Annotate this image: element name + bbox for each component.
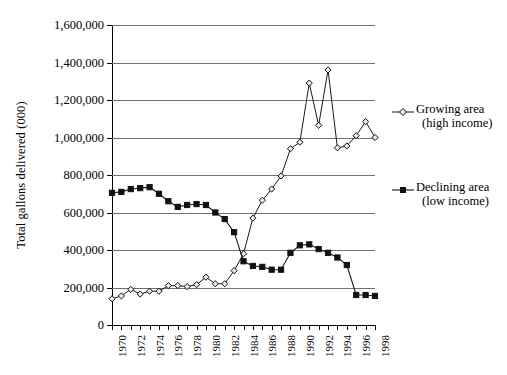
data-point-marker — [213, 210, 218, 215]
data-point-marker — [212, 281, 218, 287]
x-axis-tick — [234, 325, 235, 330]
y-axis-tick-label: 1,600,000 — [54, 18, 104, 33]
y-axis-tick-label: 1,200,000 — [54, 93, 104, 108]
legend-label-growing-area-line2: (high income) — [416, 116, 492, 130]
y-axis-title: Total gallons delivered (000) — [14, 60, 38, 290]
data-point-marker — [307, 242, 312, 247]
x-axis-tick — [253, 325, 254, 330]
data-point-marker — [325, 250, 330, 255]
y-axis-tick-label: 200,000 — [63, 280, 104, 295]
data-point-marker — [372, 293, 377, 298]
x-axis-tick — [215, 325, 216, 330]
x-axis-tick — [328, 325, 329, 330]
x-axis-tick — [121, 325, 122, 330]
data-point-marker — [138, 186, 143, 191]
x-axis-tick — [197, 325, 198, 330]
x-axis-tick — [168, 325, 169, 330]
x-axis-tick — [290, 325, 291, 330]
data-point-marker — [166, 199, 171, 204]
x-axis-tick — [131, 325, 132, 330]
x-axis-tick-label: 1974 — [154, 335, 166, 357]
data-point-marker — [109, 296, 115, 302]
data-point-marker — [222, 216, 227, 221]
data-point-marker — [175, 283, 181, 289]
data-point-marker — [287, 146, 293, 152]
data-point-marker — [278, 267, 283, 272]
data-point-marker — [335, 255, 340, 260]
data-point-marker — [278, 173, 284, 179]
data-point-marker — [222, 281, 228, 287]
data-point-marker — [241, 259, 246, 264]
data-point-marker — [363, 292, 368, 297]
data-point-marker — [363, 118, 369, 124]
data-point-marker — [297, 243, 302, 248]
data-point-marker — [147, 185, 152, 190]
chart-container: Total gallons delivered (000) 1,600,0001… — [0, 0, 507, 375]
data-point-marker — [119, 189, 124, 194]
data-point-marker — [306, 80, 312, 86]
x-axis-tick-label: 1980 — [210, 335, 222, 357]
data-point-marker — [260, 264, 265, 269]
data-point-marker — [185, 202, 190, 207]
x-axis-tick — [337, 325, 338, 330]
data-point-marker — [316, 246, 321, 251]
y-axis-tick-label: 600,000 — [63, 205, 104, 220]
data-point-marker — [203, 202, 208, 207]
x-axis-tick-label: 1970 — [116, 335, 128, 357]
x-axis-tick — [375, 325, 376, 330]
data-point-marker — [250, 263, 255, 268]
filled-square-marker-icon — [392, 184, 414, 196]
x-axis-tick-label: 1982 — [229, 335, 241, 357]
data-point-marker — [372, 134, 378, 140]
legend-label-declining-area-line1: Declining area — [416, 180, 489, 194]
data-point-marker — [269, 267, 274, 272]
data-point-marker — [250, 215, 256, 221]
data-point-marker — [109, 190, 114, 195]
data-point-marker — [325, 67, 331, 73]
x-axis-tick — [309, 325, 310, 330]
x-axis-tick — [178, 325, 179, 330]
data-point-marker — [297, 139, 303, 145]
x-axis-tick — [244, 325, 245, 330]
x-axis-tick — [187, 325, 188, 330]
data-point-marker — [231, 268, 237, 274]
data-point-marker — [232, 230, 237, 235]
x-axis-tick — [159, 325, 160, 330]
y-axis-tick-label: 1,400,000 — [54, 55, 104, 70]
data-point-marker — [354, 292, 359, 297]
data-point-marker — [128, 286, 134, 292]
x-axis-tick-label: 1984 — [248, 335, 260, 357]
x-axis-tick-label: 1978 — [191, 335, 203, 357]
x-axis-tick — [150, 325, 151, 330]
x-axis-tick — [356, 325, 357, 330]
x-axis-tick — [366, 325, 367, 330]
data-point-marker — [165, 283, 171, 289]
x-axis-tick — [206, 325, 207, 330]
x-axis-tick — [262, 325, 263, 330]
data-point-marker — [156, 288, 162, 294]
data-series-layer — [112, 25, 375, 325]
x-axis-tick-label: 1996 — [360, 335, 372, 357]
x-axis-tick-label: 1972 — [135, 335, 147, 357]
y-axis-tick-label: 800,000 — [63, 168, 104, 183]
data-point-marker — [118, 293, 124, 299]
x-axis-tick-label: 1988 — [285, 335, 297, 357]
data-point-marker — [334, 145, 340, 151]
x-axis-tick-label: 1986 — [266, 335, 278, 357]
x-axis-tick — [319, 325, 320, 330]
legend-label-growing-area-line1: Growing area — [416, 102, 484, 116]
x-axis-tick — [112, 325, 113, 330]
data-point-marker — [146, 288, 152, 294]
x-axis-tick — [225, 325, 226, 330]
data-point-marker — [128, 186, 133, 191]
x-axis-tick — [347, 325, 348, 330]
legend-label-growing-area: Growing area (high income) — [416, 102, 492, 130]
data-point-marker — [194, 201, 199, 206]
data-point-marker — [184, 283, 190, 289]
data-point-marker — [156, 191, 161, 196]
legend-label-declining-area-line2: (low income) — [416, 194, 489, 208]
data-point-marker — [316, 122, 322, 128]
data-point-marker — [344, 262, 349, 267]
legend-label-declining-area: Declining area (low income) — [416, 180, 489, 208]
data-point-marker — [137, 291, 143, 297]
